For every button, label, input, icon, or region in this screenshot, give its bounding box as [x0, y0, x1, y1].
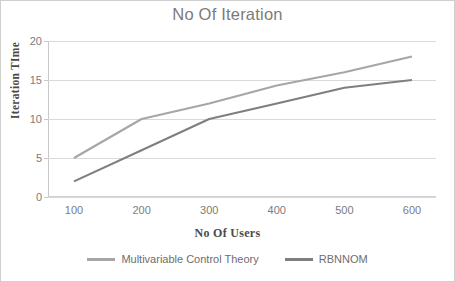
legend-item-2[interactable]: RBNNOM	[285, 253, 368, 265]
y-tick-label: 0	[36, 191, 42, 203]
y-tick-label: 10	[30, 113, 42, 125]
chart-legend: Multivariable Control TheoryRBNNOM	[1, 253, 454, 265]
x-tick-label: 100	[65, 204, 83, 216]
chart-figure: No Of Iteration 05101520 100200300400500…	[0, 0, 455, 282]
plot-area: 05101520 100200300400500600	[48, 41, 436, 197]
legend-label: RBNNOM	[319, 253, 368, 265]
series-lines	[48, 41, 436, 197]
x-tick-label: 600	[403, 204, 421, 216]
legend-item-1[interactable]: Multivariable Control Theory	[87, 253, 258, 265]
gridline	[48, 197, 436, 198]
x-tick-label: 200	[132, 204, 150, 216]
y-tick-label: 20	[30, 35, 42, 47]
x-tick-label: 500	[335, 204, 353, 216]
legend-swatch-icon	[87, 258, 115, 261]
y-tick-mark	[44, 197, 48, 198]
x-tick-label: 400	[268, 204, 286, 216]
y-axis-title: Iteration TIme	[9, 42, 21, 119]
chart-title: No Of Iteration	[1, 5, 454, 24]
series-line-1	[74, 57, 412, 158]
legend-label: Multivariable Control Theory	[121, 253, 258, 265]
legend-swatch-icon	[285, 258, 313, 261]
y-tick-label: 15	[30, 74, 42, 86]
x-tick-label: 300	[200, 204, 218, 216]
x-axis-title: No Of Users	[1, 226, 454, 241]
y-tick-label: 5	[36, 152, 42, 164]
